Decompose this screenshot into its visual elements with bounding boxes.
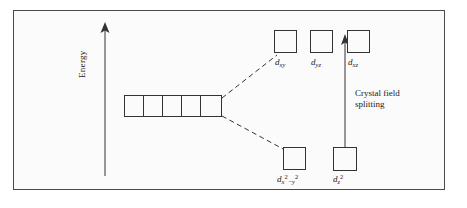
orbital-label-dx2-y2-sup2: 2 bbox=[295, 173, 298, 180]
degenerate-cell-3 bbox=[162, 95, 182, 117]
orbital-box-dxz bbox=[347, 30, 370, 53]
crystal-field-splitting-caption: Crystal field splitting bbox=[355, 88, 400, 110]
crystal-field-splitting-figure: Energy dxy dyz dxz dx2−y2 dz2 Crystal fi… bbox=[0, 0, 467, 208]
orbital-box-dx2-y2 bbox=[283, 147, 306, 170]
splitting-caption-line2: splitting bbox=[355, 99, 400, 110]
degenerate-cell-2 bbox=[143, 95, 163, 117]
orbital-label-dxy: dxy bbox=[275, 57, 285, 68]
orbital-label-dx2-y2-sub2: −y bbox=[288, 178, 295, 185]
degenerate-cell-5 bbox=[200, 95, 222, 117]
orbital-label-dxz: dxz bbox=[348, 57, 358, 68]
splitting-caption-line1: Crystal field bbox=[355, 88, 400, 99]
orbital-box-dxy bbox=[274, 30, 297, 53]
orbital-box-dyz bbox=[310, 30, 333, 53]
orbital-label-dyz-sub: yz bbox=[316, 61, 321, 68]
degenerate-cell-4 bbox=[181, 95, 201, 117]
degenerate-cell-1 bbox=[124, 95, 144, 117]
orbital-label-dxy-sub: xy bbox=[280, 61, 286, 68]
energy-axis-label: Energy bbox=[77, 50, 87, 78]
orbital-label-dyz: dyz bbox=[311, 57, 321, 68]
orbital-box-dz2 bbox=[333, 147, 357, 171]
orbital-label-dz2-sup: 2 bbox=[340, 173, 343, 180]
orbital-label-dz2: dz2 bbox=[333, 173, 343, 185]
orbital-label-dxz-sub: xz bbox=[353, 61, 358, 68]
orbital-label-dx2-y2: dx2−y2 bbox=[277, 173, 298, 185]
